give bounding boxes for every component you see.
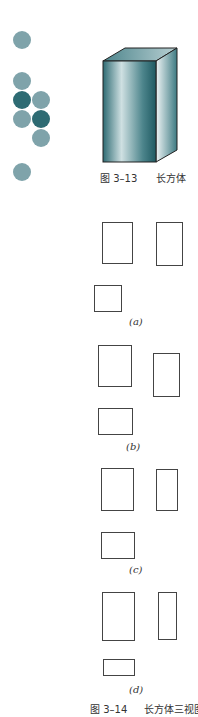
- figure-3-14-caption: 图 3–14 长方体三视图: [90, 701, 198, 716]
- side-view: [156, 222, 183, 266]
- side-view: [153, 353, 180, 397]
- caption-number: 图 3–13: [100, 173, 137, 184]
- front-view: [102, 222, 133, 264]
- top-view: [101, 532, 135, 559]
- caption-title: 长方体三视图: [144, 704, 198, 715]
- side-view: [158, 592, 177, 640]
- option-label: (a): [129, 316, 143, 327]
- front-view: [102, 592, 135, 641]
- front-view: [101, 468, 134, 511]
- figure-3-13-caption: 图 3–13 长方体: [100, 170, 186, 185]
- caption-title: 长方体: [156, 173, 186, 184]
- side-view: [156, 469, 178, 511]
- option-label: (d): [129, 684, 143, 695]
- top-view: [98, 408, 133, 435]
- top-view: [103, 659, 135, 676]
- front-view: [98, 345, 132, 387]
- top-view: [94, 285, 122, 312]
- caption-number: 图 3–14: [90, 704, 127, 715]
- option-label: (c): [129, 564, 142, 575]
- option-label: (b): [126, 441, 140, 452]
